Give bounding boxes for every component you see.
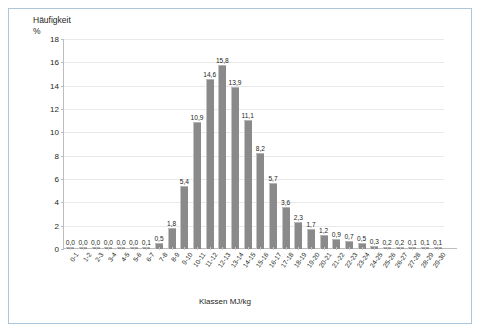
bar-value-label: 0,1 [408,239,417,246]
bar-value-label: 8,2 [256,145,265,152]
y-tick-label: 18 [50,35,59,44]
bar-value-label: 11,1 [241,112,253,119]
bar-value-label: 10,9 [191,114,204,121]
bar-value-label: 0,2 [395,239,404,246]
bar-value-label: 0,7 [344,233,353,240]
x-tick-mark [260,247,261,250]
y-tick-label: 8 [55,151,59,160]
bar-value-label: 0,0 [129,239,138,246]
x-tick-label: 0-1 [68,251,79,263]
x-tick-mark [362,247,363,250]
bar-value-label: 0,1 [433,239,442,246]
figure-frame: Häufigkeit % 024681012141618 0,00,00,00,… [8,8,472,324]
bar-value-label: 0,3 [370,238,379,245]
bars-layer: 0,00,00,00,00,00,00,10,51,85,410,914,615… [64,39,444,249]
x-tick-mark [336,247,337,250]
bar-value-label: 13,9 [229,79,242,86]
x-tick-mark [286,247,287,250]
x-tick-mark [400,247,401,250]
bar-value-label: 0,0 [91,239,100,246]
x-tick-mark [311,247,312,250]
y-tick-label: 4 [55,198,59,207]
y-tick-label: 0 [55,245,59,254]
bar-value-label: 0,0 [104,239,113,246]
y-tick-label: 14 [50,81,59,90]
bar-value-label: 1,7 [306,221,315,228]
x-tick-mark [374,247,375,250]
x-tick-mark [324,247,325,250]
x-tick-mark [159,247,160,250]
x-tick-mark [273,247,274,250]
x-tick-label: 12-13 [216,251,231,269]
bar-rect [269,183,277,250]
bar-value-label: 0,9 [332,231,341,238]
x-tick-mark [438,247,439,250]
x-tick-mark [197,247,198,250]
bar-value-label: 14,6 [203,71,216,78]
x-tick-label: 7-8 [157,251,168,263]
x-tick-mark [108,247,109,250]
bar-rect [294,222,302,249]
x-tick-label: 3-4 [106,251,117,263]
x-tick-mark [235,247,236,250]
bar-value-label: 5,4 [180,178,189,185]
bar-rect [180,186,188,249]
x-tick-mark [83,247,84,250]
x-tick-mark [248,247,249,250]
bar-rect [282,207,290,249]
y-axis-title: Häufigkeit % [33,15,71,36]
bar-value-label: 0,0 [116,239,125,246]
bar-value-label: 2,3 [294,214,303,221]
bar-value-label: 0,5 [357,235,366,242]
x-tick-mark [172,247,173,250]
bar-value-label: 1,2 [319,227,328,234]
x-tick-label: 10-11 [191,251,206,268]
bar-rect [218,65,226,249]
bar-value-label: 0,1 [142,239,151,246]
x-axis-title: Klassen MJ/kg [9,297,471,306]
y-tick-mark [61,249,64,250]
x-tick-label: 8-9 [170,251,181,263]
x-axis-ticks: 0-11-22-33-44-55-66-77-88-99-1010-1111-1… [64,251,444,297]
x-tick-label: 5-6 [132,251,143,263]
y-tick-label: 6 [55,175,59,184]
bar-value-label: 0,0 [66,239,75,246]
histogram-chart: Häufigkeit % 024681012141618 0,00,00,00,… [9,9,471,323]
bar-rect [244,120,252,250]
bar-rect [256,153,264,249]
x-tick-mark [70,247,71,250]
x-tick-mark [387,247,388,250]
bar-value-label: 0,2 [382,239,391,246]
x-tick-mark [96,247,97,250]
x-tick-mark [146,247,147,250]
x-tick-mark [134,247,135,250]
x-tick-mark [298,247,299,250]
y-tick-label: 2 [55,221,59,230]
plot-area: 024681012141618 0,00,00,00,00,00,00,10,5… [64,39,444,249]
y-tick-label: 10 [50,128,59,137]
x-tick-label: 4-5 [119,251,130,263]
x-tick-mark [121,247,122,250]
x-tick-mark [210,247,211,250]
x-tick-mark [184,247,185,250]
x-tick-mark [412,247,413,250]
bar-value-label: 0,5 [154,235,163,242]
y-tick-label: 16 [50,58,59,67]
bar-rect [206,79,214,249]
x-tick-mark [222,247,223,250]
bar-value-label: 1,8 [167,220,176,227]
x-tick-label: 2-3 [94,251,105,263]
bar-value-label: 0,1 [420,239,429,246]
bar-value-label: 3,6 [281,199,290,206]
x-tick-mark [349,247,350,250]
bar-value-label: 0,0 [78,239,87,246]
bar-value-label: 5,7 [268,175,277,182]
bar-rect [168,228,176,249]
x-tick-label: 6-7 [144,251,155,263]
x-tick-label: 1-2 [81,251,92,263]
bar-value-label: 15,8 [216,57,229,64]
x-tick-mark [425,247,426,250]
y-tick-label: 12 [50,105,59,114]
bar-rect [231,87,239,249]
bar-rect [193,122,201,249]
